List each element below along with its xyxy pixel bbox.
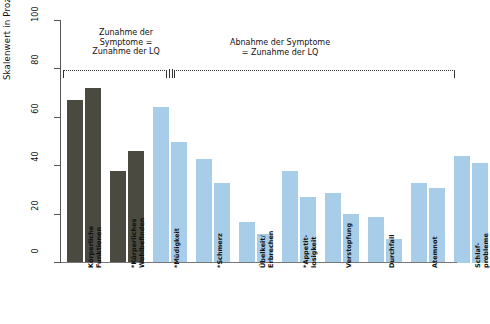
y-tick-label-80: 80 [31,55,40,81]
bar-9-0 [454,156,470,263]
x-label-2: *Müdigkeit [174,214,182,268]
y-axis-title: Skalenwert in Prozent [2,0,12,80]
x-label-3: *Schmerz [217,214,225,268]
y-tick-0 [54,262,60,263]
x-label-0: Körperliche Funktionen [88,214,103,268]
x-label-7: Durchfall [389,214,397,268]
y-tick-label-100: 100 [31,7,40,33]
bar-3-0 [196,159,212,263]
x-label-1: *Körperliches Wohlbefinden [131,214,146,268]
y-tick-60 [54,117,60,118]
y-tick-40 [54,165,60,166]
x-label-9: Schlaf- probleme [475,214,490,268]
bar-7-0 [368,217,384,263]
y-tick-label-20: 20 [31,200,40,226]
x-label-6: Verstopfung [346,214,354,268]
x-label-8: Atemnot [432,214,440,268]
y-tick-80 [54,68,60,69]
bar-5-0 [282,171,298,263]
y-tick-label-40: 40 [31,152,40,178]
bars-area [61,20,457,263]
x-label-5: *Appetit- losigkeit [303,214,318,268]
bar-1-0 [110,171,126,263]
bar-0-0 [67,100,83,263]
bar-6-0 [325,193,341,263]
bar-2-0 [153,107,169,263]
bar-8-0 [411,183,427,263]
y-tick-100 [54,20,60,21]
y-tick-label-0: 0 [31,249,40,275]
x-label-4: Übelkeit/ Erbrechen [260,214,275,268]
y-tick-label-60: 60 [31,103,40,129]
bar-4-0 [239,222,255,263]
y-tick-20 [54,214,60,215]
